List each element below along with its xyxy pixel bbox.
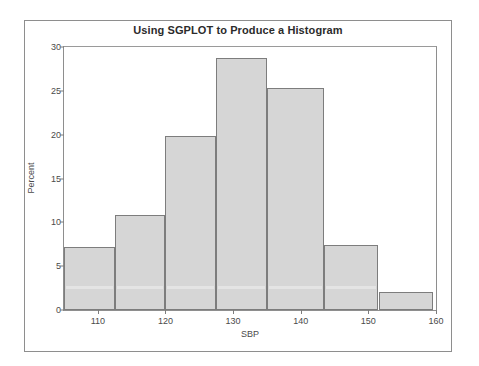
x-axis-tick-label: 120 [158,316,173,326]
scan-artifact [218,286,265,289]
x-axis-tick-mark [233,310,234,314]
y-axis-tick-mark [60,47,64,48]
histogram-bars [64,47,436,310]
y-axis-tick-mark [60,178,64,179]
histogram-bar [64,247,115,310]
histogram-bar [115,215,166,310]
y-axis-tick-mark [60,134,64,135]
y-axis-tick-mark [60,90,64,91]
scan-artifact [167,286,214,289]
histogram-bar [324,245,378,310]
plot-area: 051015202530110120130140150160 [63,46,437,311]
x-axis-tick-mark [301,310,302,314]
histogram-bar [267,88,324,310]
scan-artifact [66,286,113,289]
x-axis-label: SBP [63,329,437,339]
x-axis-tick-mark [98,310,99,314]
scan-artifact [117,286,164,289]
y-axis-label: Percent [26,162,36,193]
scan-artifact [326,286,376,289]
histogram-bar [165,136,216,310]
x-axis-tick-mark [368,310,369,314]
y-axis-tick-mark [60,222,64,223]
scan-artifact [269,286,322,289]
y-axis-tick-mark [60,310,64,311]
y-axis-tick-mark [60,266,64,267]
chart-title: Using SGPLOT to Produce a Histogram [24,24,452,36]
x-axis-tick-label: 150 [361,316,376,326]
x-axis-tick-label: 140 [293,316,308,326]
scan-artifact [381,286,431,289]
clipped-text-artifact [0,0,479,9]
histogram-bar [379,292,433,310]
x-axis-tick-label: 160 [428,316,443,326]
x-axis-tick-label: 130 [226,316,241,326]
histogram-bar [216,58,267,310]
x-axis-tick-mark [165,310,166,314]
x-axis-tick-label: 110 [91,316,105,326]
x-axis-tick-mark [436,310,437,314]
